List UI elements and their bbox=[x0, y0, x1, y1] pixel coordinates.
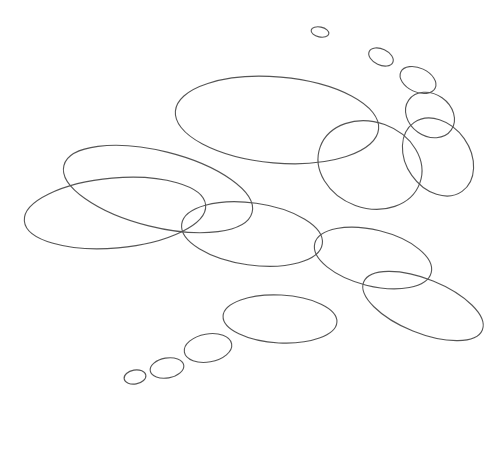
ellipse-diagram bbox=[0, 0, 500, 454]
diagram-background bbox=[0, 0, 500, 454]
ellipse-diagram-svg bbox=[0, 0, 500, 454]
